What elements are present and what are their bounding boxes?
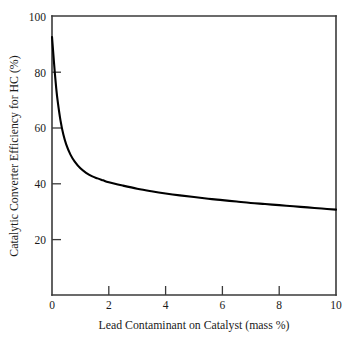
x-tick-label-4: 4 bbox=[163, 299, 169, 311]
y-tick-label-60: 60 bbox=[35, 122, 47, 134]
x-axis-title: Lead Contaminant on Catalyst (mass %) bbox=[98, 318, 289, 332]
x-tick-label-8: 8 bbox=[276, 299, 282, 311]
y-tick-label-100: 100 bbox=[29, 11, 47, 23]
x-tick-label-10: 10 bbox=[330, 299, 342, 311]
y-axis-title: Catalytic Converter Efficiency for HC (%… bbox=[7, 55, 21, 256]
y-tick-label-20: 20 bbox=[35, 234, 47, 246]
y-tick-label-80: 80 bbox=[35, 67, 47, 79]
catalytic-efficiency-line-chart: 100 80 60 40 20 0 2 4 6 8 10 Lead Contam… bbox=[0, 0, 355, 347]
x-tick-label-2: 2 bbox=[106, 299, 112, 311]
x-tick-label-6: 6 bbox=[220, 299, 226, 311]
x-tick-label-0: 0 bbox=[49, 299, 55, 311]
chart-figure: 100 80 60 40 20 0 2 4 6 8 10 Lead Contam… bbox=[0, 0, 355, 347]
y-tick-label-40: 40 bbox=[35, 178, 47, 190]
